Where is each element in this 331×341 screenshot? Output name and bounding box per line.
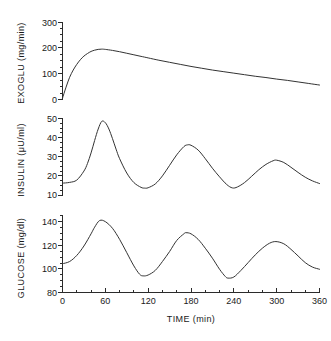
insulin-tick-label-10: 10 <box>47 190 57 200</box>
glucose-tick-label-100: 100 <box>42 264 57 274</box>
time-tick-label-60: 60 <box>100 296 110 306</box>
time-tick-label-360: 360 <box>312 296 327 306</box>
time-tick-label-240: 240 <box>226 296 241 306</box>
glucose-data-curve <box>63 220 320 278</box>
exoglu-tick-label-200: 200 <box>42 43 57 53</box>
glucose-tick-label-120: 120 <box>42 241 57 251</box>
time-x-major-ticks <box>63 288 320 293</box>
time-tick-label-300: 300 <box>269 296 284 306</box>
time-tick-label-180: 180 <box>183 296 198 306</box>
insulin-data-curve <box>63 121 320 188</box>
three-panel-timeseries-chart: EXOGLU (mg/min) 300 200 100 0 <box>0 0 331 341</box>
insulin-tick-label-50: 50 <box>47 114 57 124</box>
exoglu-tick-label-0: 0 <box>52 95 57 105</box>
insulin-tick-label-20: 20 <box>47 171 57 181</box>
insulin-tick-label-30: 30 <box>47 152 57 162</box>
exoglu-y-tick-labels: 300 200 100 0 <box>42 18 57 105</box>
glucose-tick-label-80: 80 <box>47 288 57 298</box>
time-tick-label-0: 0 <box>60 296 65 306</box>
glucose-axis-title: GLUCOSE (mg/dl) <box>16 218 26 299</box>
time-x-tick-labels: 0 60 120 180 240 300 360 <box>60 296 327 306</box>
insulin-axis-title: INSULIN (μU/ml) <box>16 123 26 197</box>
panel-insulin: INSULIN (μU/ml) 50 40 30 20 10 <box>16 114 320 200</box>
glucose-y-tick-labels: 140 120 100 80 <box>42 217 57 298</box>
exoglu-axis-title: EXOGLU (mg/min) <box>16 22 26 104</box>
exoglu-tick-label-100: 100 <box>42 69 57 79</box>
panel-exoglu: EXOGLU (mg/min) 300 200 100 0 <box>16 18 320 105</box>
exoglu-tick-label-300: 300 <box>42 18 57 28</box>
time-tick-label-120: 120 <box>141 296 156 306</box>
figure-container: EXOGLU (mg/min) 300 200 100 0 <box>0 0 331 341</box>
exoglu-data-curve <box>63 49 320 98</box>
insulin-y-major-ticks <box>58 119 63 196</box>
time-axis-title: TIME (min) <box>167 314 216 324</box>
insulin-y-tick-labels: 50 40 30 20 10 <box>47 114 57 200</box>
insulin-tick-label-40: 40 <box>47 133 57 143</box>
panel-glucose: GLUCOSE (mg/dl) 140 120 100 80 <box>16 215 327 324</box>
glucose-tick-label-140: 140 <box>42 217 57 227</box>
